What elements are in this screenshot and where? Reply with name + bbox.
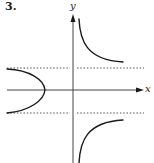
y-axis-arrow-icon xyxy=(71,14,76,22)
upper-right-branch xyxy=(79,19,123,62)
y-axis xyxy=(71,14,76,163)
x-axis-arrow-icon xyxy=(136,88,144,93)
lower-right-branch xyxy=(79,120,123,163)
left-arc-branch xyxy=(7,69,45,113)
graph xyxy=(0,0,154,163)
x-axis xyxy=(7,88,144,93)
